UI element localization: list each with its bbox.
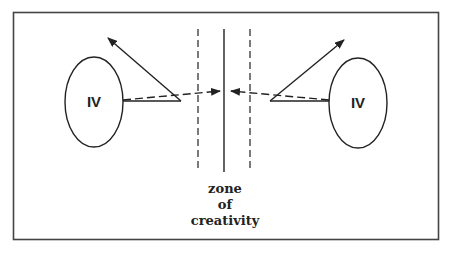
left-node: IV	[65, 38, 220, 147]
left-up-arrow	[108, 38, 181, 101]
caption-line-1: zone	[175, 181, 275, 197]
right-up-arrow	[270, 40, 344, 101]
left-node-label: IV	[87, 93, 101, 110]
caption-line-3: creativity	[175, 213, 275, 229]
zone-caption: zone of creativity	[175, 181, 275, 229]
caption-line-2: of	[175, 197, 275, 213]
right-node-label: IV	[351, 94, 365, 111]
right-node: IV	[231, 40, 387, 148]
